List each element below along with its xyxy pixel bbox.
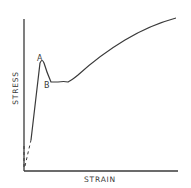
dashed-segment-right (25, 140, 31, 166)
point-a-label: A (37, 54, 43, 63)
point-b-label: B (44, 81, 50, 90)
stress-strain-chart: A B STRAIN STRESS (0, 0, 191, 188)
stress-strain-curve (31, 18, 176, 140)
y-axis-label: STRESS (11, 71, 20, 105)
x-axis-label: STRAIN (84, 175, 116, 184)
